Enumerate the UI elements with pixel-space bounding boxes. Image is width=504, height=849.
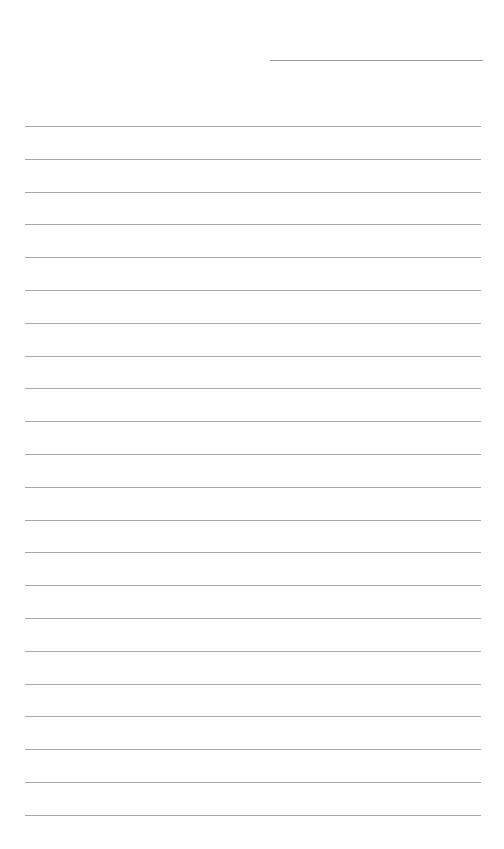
ruled-line	[25, 552, 481, 553]
ruled-line	[25, 815, 481, 816]
ruled-line	[25, 388, 481, 389]
header-line	[270, 60, 483, 61]
ruled-line	[25, 290, 481, 291]
ruled-line	[25, 618, 481, 619]
ruled-line	[25, 782, 481, 783]
ruled-line	[25, 585, 481, 586]
ruled-line	[25, 126, 481, 127]
ruled-line	[25, 356, 481, 357]
ruled-line	[25, 159, 481, 160]
ruled-line	[25, 224, 481, 225]
ruled-line	[25, 684, 481, 685]
ruled-line	[25, 323, 481, 324]
ruled-line	[25, 651, 481, 652]
ruled-line	[25, 454, 481, 455]
ruled-line	[25, 257, 481, 258]
ruled-line	[25, 749, 481, 750]
ruled-line	[25, 421, 481, 422]
ruled-line	[25, 716, 481, 717]
ruled-line	[25, 520, 481, 521]
ruled-line	[25, 487, 481, 488]
ruled-line	[25, 192, 481, 193]
